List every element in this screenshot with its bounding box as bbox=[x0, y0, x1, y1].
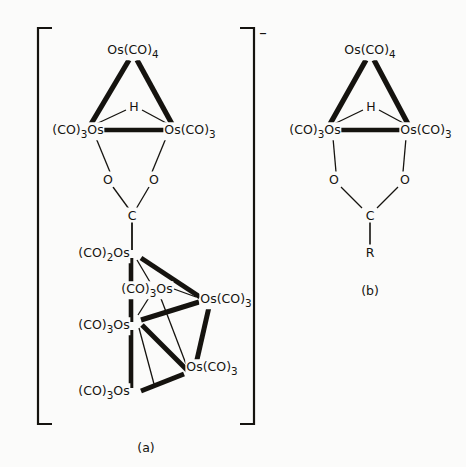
caption-a: (a) bbox=[137, 440, 154, 455]
bond-os-apex-to-os-right-b bbox=[374, 60, 408, 124]
hydride-label-b: H bbox=[365, 99, 376, 114]
bond-cluster-bottomleft-bottomright-a bbox=[141, 374, 184, 391]
figure-canvas: – Os(CO)4 (CO)3Os Os(CO)3 H O O C (CO)2O… bbox=[0, 0, 466, 467]
oxygen-left-label-a: O bbox=[102, 172, 114, 187]
substituent-label-b: R bbox=[365, 245, 376, 260]
carbon-label-a: C bbox=[127, 208, 138, 223]
cluster-os-right-label-a: Os(CO)3 bbox=[199, 291, 252, 309]
bond-os-apex-to-os-left-b bbox=[330, 60, 366, 124]
carbon-label-b: C bbox=[365, 208, 376, 223]
oxygen-left-label-b: O bbox=[328, 172, 340, 187]
bond-os-apex-to-os-left-a bbox=[91, 60, 129, 124]
oxygen-right-label-b: O bbox=[399, 172, 411, 187]
cluster-os-bottom-left-label-a: (CO)3Os bbox=[77, 383, 130, 401]
cluster-os-top-left-label-a: (CO)2Os bbox=[77, 245, 130, 263]
os-right-label-b: Os(CO)3 bbox=[399, 122, 452, 140]
hydride-label-a: H bbox=[128, 99, 139, 114]
bracket-right-a bbox=[240, 28, 254, 424]
oxygen-right-label-a: O bbox=[148, 172, 160, 187]
bond-cluster-midleft-right-a bbox=[141, 302, 199, 320]
bond-os-right-to-oxygen-b bbox=[403, 138, 406, 172]
structure-drawing bbox=[0, 0, 466, 467]
bond-os-left-to-oxygen-b bbox=[333, 138, 336, 172]
bond-os-apex-to-os-right-a bbox=[137, 60, 172, 124]
bond-cluster-inner-midleft-a bbox=[138, 296, 150, 315]
bond-os-left-to-oxygen-a bbox=[96, 138, 110, 172]
os-apex-label-b: Os(CO)4 bbox=[343, 42, 396, 60]
bond-oxygen-left-to-carbon-a bbox=[113, 187, 129, 209]
cluster-os-mid-left-label-a: (CO)3Os bbox=[77, 317, 130, 335]
bond-oxygen-left-to-carbon-b bbox=[341, 187, 362, 208]
os-right-label-a: Os(CO)3 bbox=[163, 122, 216, 140]
caption-b: (b) bbox=[361, 283, 379, 298]
cluster-os-inner-label-a: (CO)3Os bbox=[120, 281, 173, 299]
charge-label-a: – bbox=[259, 24, 267, 42]
bond-oxygen-right-to-carbon-b bbox=[377, 187, 398, 208]
os-left-label-a: (CO)3Os bbox=[51, 122, 104, 140]
cluster-os-bottom-right-label-a: Os(CO)3 bbox=[185, 359, 238, 377]
bond-os-right-to-oxygen-a bbox=[152, 138, 166, 172]
bond-oxygen-right-to-carbon-a bbox=[136, 187, 149, 209]
bond-cluster-right-bottomright-a bbox=[196, 307, 209, 364]
os-left-label-b: (CO)3Os bbox=[288, 122, 341, 140]
os-apex-label-a: Os(CO)4 bbox=[106, 42, 159, 60]
bracket-left-a bbox=[38, 28, 52, 424]
